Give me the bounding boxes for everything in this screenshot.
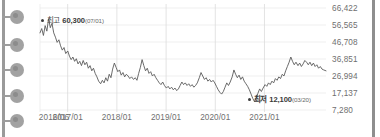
low-annotation: 최저 12,100(03/20) (248, 93, 311, 104)
rail-node-dot-icon[interactable] (10, 10, 24, 24)
rail-node-dot-icon[interactable] (10, 63, 24, 77)
x-axis-tick-label: 2019/01 (151, 113, 181, 122)
x-axis-tick-label: 2020/01 (200, 113, 230, 122)
rail-node-dot-icon[interactable] (10, 89, 24, 103)
x-axis-tick-label: 2021/01 (249, 113, 279, 122)
rail-node-dot-icon[interactable] (10, 38, 24, 52)
rail-node-4[interactable] (2, 89, 24, 103)
price-line (40, 19, 326, 102)
rail-node-1[interactable] (2, 10, 24, 24)
y-axis-tick-label: 26,994 (332, 72, 358, 81)
rail-node-3[interactable] (2, 63, 24, 77)
low-date: (03/20) (292, 96, 311, 103)
high-date: (07/01) (85, 17, 104, 24)
y-axis-tick-label: 56,565 (332, 21, 358, 30)
chart-widget: 66,42256,56546,70836,85126,99417,1377,28… (0, 0, 380, 137)
low-marker-icon (248, 98, 251, 101)
vertical-scrollbar[interactable] (372, 0, 375, 137)
high-label: 최고 (47, 16, 61, 25)
x-axis-tick-label: 2017/01 (53, 113, 83, 122)
rail-node-dot-icon[interactable] (10, 114, 24, 128)
low-value: 12,100 (269, 95, 292, 104)
y-axis-tick-label: 46,708 (332, 38, 358, 47)
timeline-rail (0, 0, 26, 137)
y-axis-tick-label: 36,851 (332, 55, 358, 64)
x-axis-tick-label: 2018/01 (102, 113, 132, 122)
high-value: 60,300 (62, 16, 85, 25)
y-axis-tick-label: 17,137 (332, 89, 358, 98)
rail-node-5[interactable] (2, 114, 24, 128)
x-axis-labels: 2016/062017/012018/012019/012020/012021/… (26, 113, 374, 129)
stock-line-chart[interactable]: 66,42256,56546,70836,85126,99417,1377,28… (26, 0, 374, 137)
high-marker-icon (41, 19, 44, 22)
high-annotation: 최고 60,300(07/01) (41, 14, 104, 25)
low-label: 최저 (254, 95, 268, 104)
rail-node-2[interactable] (2, 38, 24, 52)
y-axis-tick-label: 66,422 (332, 4, 358, 13)
